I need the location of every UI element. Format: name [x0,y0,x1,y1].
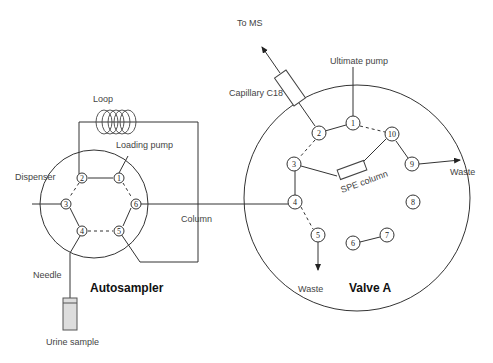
va-port-label-7: 7 [385,231,389,240]
va-port-label-8: 8 [411,198,415,207]
as-port-label-5: 5 [117,227,121,236]
va-port-label-2: 2 [317,129,321,138]
va-port-label-9: 9 [410,160,414,169]
label-urine-sample: Urine sample [46,337,99,347]
va-port-label-1: 1 [351,119,355,128]
label-capillary: Capillary C18 [229,88,283,98]
label-column: Column [181,214,212,224]
label-valve-a: Valve A [349,281,392,295]
va-port-label-6: 6 [351,239,355,248]
label-loading-pump: Loading pump [116,140,173,150]
as-port-label-4: 4 [80,227,84,236]
va-port-label-3: 3 [292,160,296,169]
va-port-label-5: 5 [316,231,320,240]
va-port-label-10: 10 [388,130,396,139]
label-dispenser: Dispenser [15,172,56,182]
as-port-label-3: 3 [64,200,68,209]
label-loop: Loop [93,94,113,104]
as-port-label-6: 6 [134,200,138,209]
label-autosampler: Autosampler [90,281,164,295]
as-port-label-2: 2 [80,174,84,183]
as-port-label-1: 1 [117,174,121,183]
label-ultimate-pump: Ultimate pump [330,56,388,66]
label-to-ms: To MS [237,18,263,28]
label-waste-right: Waste [450,167,475,177]
autosampler-ports [61,173,141,236]
label-waste-bottom: Waste [298,284,323,294]
va-port-label-4: 4 [293,198,297,207]
lc-ms-diagram: 1 2 3 4 5 6 [0,0,493,363]
label-needle: Needle [33,270,62,280]
